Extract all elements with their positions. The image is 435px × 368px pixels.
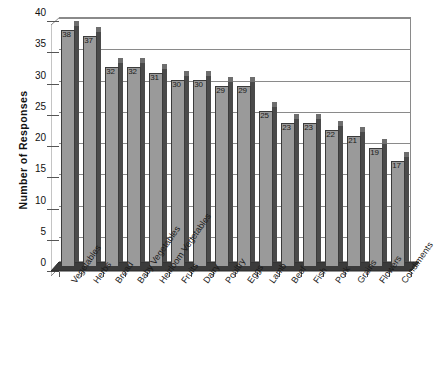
x-axis-category-label: Fish <box>312 266 329 285</box>
x-axis-category-label: Dairy <box>202 263 221 285</box>
x-axis-category-label: Grains <box>356 258 379 285</box>
x-axis-category-label: Condiments <box>400 241 435 286</box>
x-axis-category-label: Beef <box>290 265 308 285</box>
x-axis-category-label: Fruits <box>180 262 200 286</box>
x-axis-category-label: Bread <box>114 260 135 285</box>
x-axis-category-label: Herbs <box>92 260 113 285</box>
x-axis-category-label: Lamb <box>268 262 288 286</box>
x-axis-category-label: Poultry <box>224 257 247 285</box>
x-axis-category-label: Pork <box>334 265 352 285</box>
x-axis-category-label: Eggs <box>246 263 265 285</box>
